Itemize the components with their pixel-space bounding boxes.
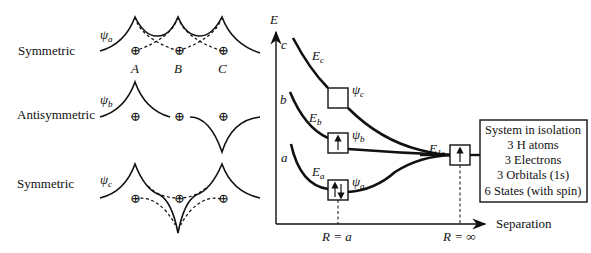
nuclei-row-b: ⊕ ⊕ ⊕	[130, 109, 229, 124]
svg-text:E: E	[428, 141, 437, 156]
svg-text:c: c	[108, 179, 112, 189]
svg-text:c: c	[360, 89, 364, 99]
x-marker-r-a: R = a	[321, 229, 352, 244]
svg-text:A: A	[130, 61, 139, 76]
svg-text:⊕: ⊕	[174, 191, 185, 206]
svg-text:b: b	[317, 117, 322, 127]
curve-letter-a: a	[281, 150, 288, 165]
svg-text:⊕: ⊕	[130, 109, 141, 124]
svg-text:⊕: ⊕	[130, 43, 141, 58]
molecular-orbital-diagram: Symmetric Antisymmetric Symmetric ψ a ψ …	[0, 0, 591, 253]
info-line-3: 3 Orbitals (1s)	[497, 168, 569, 182]
curve-letter-c: c	[281, 37, 287, 52]
info-line-1: 3 H atoms	[507, 138, 559, 152]
svg-text:⊕: ⊕	[218, 109, 229, 124]
svg-text:b: b	[108, 99, 113, 109]
row-label-symmetric-c: Symmetric	[17, 176, 74, 191]
nuclei-row-a: ⊕ ⊕ ⊕	[130, 43, 229, 58]
box-psi-c-label: ψ c	[352, 82, 364, 99]
orbital-box-psi-a	[328, 180, 348, 200]
orbital-box-psi-c	[328, 88, 348, 108]
box-psi-b-label: ψ b	[352, 127, 365, 144]
y-axis-label: E	[269, 12, 278, 27]
svg-text:a: a	[108, 34, 113, 44]
energy-label-ea: E a	[311, 164, 325, 181]
psi-a-label: ψ a	[100, 27, 113, 44]
psi-c-label: ψ c	[100, 172, 112, 189]
svg-text:B: B	[174, 61, 182, 76]
row-label-antisymmetric-b: Antisymmetric	[17, 107, 95, 122]
nuclei-labels: A B C	[130, 61, 227, 76]
box-psi-a-label: ψ a	[352, 174, 365, 191]
energy-label-ec: E c	[311, 48, 324, 65]
svg-text:⊕: ⊕	[174, 109, 185, 124]
info-line-0: System in isolation	[485, 123, 582, 137]
svg-text:⊕: ⊕	[174, 43, 185, 58]
x-axis-label: Separation	[496, 216, 552, 231]
svg-text:c: c	[320, 55, 324, 65]
energy-curve-a	[291, 144, 328, 189]
svg-text:E: E	[311, 48, 320, 63]
svg-text:⊕: ⊕	[218, 191, 229, 206]
svg-text:⊕: ⊕	[130, 191, 141, 206]
svg-text:a: a	[320, 171, 325, 181]
row-label-symmetric-a: Symmetric	[18, 43, 75, 58]
svg-text:C: C	[218, 61, 227, 76]
svg-text:1s: 1s	[437, 148, 446, 158]
svg-text:E: E	[311, 164, 320, 179]
svg-text:a: a	[360, 181, 365, 191]
curve-letter-b: b	[280, 92, 287, 107]
psi-b-label: ψ b	[100, 92, 113, 109]
svg-text:⊕: ⊕	[218, 43, 229, 58]
info-line-4: 6 States (with spin)	[485, 184, 582, 198]
energy-label-e1s: E 1s	[428, 141, 446, 158]
info-line-2: 3 Electrons	[505, 153, 562, 167]
svg-text:b: b	[360, 134, 365, 144]
x-marker-r-inf: R = ∞	[442, 229, 475, 244]
